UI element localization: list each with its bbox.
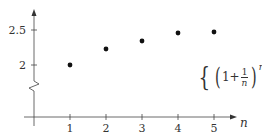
x-tick-label: 1 (67, 122, 74, 135)
x-axis-label: n (240, 116, 248, 130)
y-tick-label: 2 (19, 59, 26, 72)
data-point (104, 47, 109, 52)
axis-break-icon (29, 81, 39, 91)
x-tick-label: 2 (103, 122, 110, 135)
x-tick-label: 3 (139, 122, 146, 135)
sequence-formula: { ( 1+ 1 n ) n } (196, 64, 262, 90)
data-point (140, 39, 145, 44)
x-axis-arrow-icon (230, 115, 237, 120)
x-tick-label: 4 (175, 122, 182, 135)
data-point (68, 63, 73, 68)
data-point (212, 30, 217, 35)
fraction: 1 n (241, 67, 249, 88)
data-point (176, 31, 181, 36)
x-tick-label: 5 (211, 122, 218, 135)
y-tick-label: 2.5 (9, 24, 27, 37)
y-axis-arrow-icon (32, 9, 37, 16)
